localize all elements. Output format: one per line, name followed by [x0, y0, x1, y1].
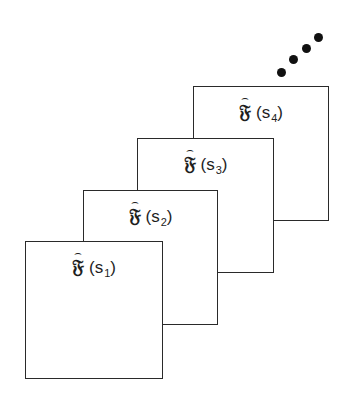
frame-label: 𝔉⌢(s1) — [26, 255, 162, 279]
continuation-dot — [289, 55, 298, 64]
continuation-dot — [302, 44, 311, 53]
frame-label: 𝔉⌢(s3) — [138, 152, 273, 176]
frame-label: 𝔉⌢(s2) — [84, 204, 217, 228]
hat-icon: ⌢ — [131, 195, 139, 209]
fourier-symbol: 𝔉⌢ — [184, 152, 196, 175]
hat-icon: ⌢ — [186, 143, 194, 157]
frame-label: 𝔉⌢(s4) — [194, 100, 328, 124]
continuation-dot — [314, 33, 323, 42]
fourier-symbol: 𝔉⌢ — [239, 100, 251, 123]
frame-s1: 𝔉⌢(s1) — [25, 241, 163, 379]
fourier-symbol: 𝔉⌢ — [72, 255, 84, 278]
hat-icon: ⌢ — [241, 91, 249, 105]
fourier-symbol: 𝔉⌢ — [129, 204, 141, 227]
continuation-dot — [277, 68, 286, 77]
hat-icon: ⌢ — [74, 246, 82, 260]
